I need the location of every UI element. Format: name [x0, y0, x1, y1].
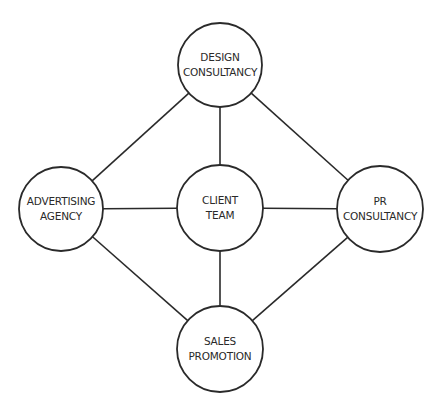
label-line: TEAM — [170, 208, 270, 223]
label-line: CONSULTANCY — [170, 65, 270, 80]
edge-advertising-sales — [93, 237, 188, 321]
label-line: CONSULTANCY — [330, 209, 430, 224]
edge-design-advertising — [92, 93, 189, 181]
node-label-pr: PR CONSULTANCY — [330, 194, 430, 224]
edge-design-pr — [251, 93, 348, 180]
label-line: DESIGN — [170, 50, 270, 65]
node-label-design: DESIGN CONSULTANCY — [170, 50, 270, 80]
node-label-advertising: ADVERTISING AGENCY — [11, 194, 111, 224]
label-line: AGENCY — [11, 209, 111, 224]
edge-pr-sales — [252, 237, 347, 320]
label-line: PR — [330, 194, 430, 209]
label-line: PROMOTION — [170, 349, 270, 364]
node-label-sales: SALES PROMOTION — [170, 334, 270, 364]
label-line: SALES — [170, 334, 270, 349]
diagram-canvas: DESIGN CONSULTANCY ADVERTISING AGENCY CL… — [0, 0, 443, 414]
node-label-client: CLIENT TEAM — [170, 193, 270, 223]
label-line: ADVERTISING — [11, 194, 111, 209]
label-line: CLIENT — [170, 193, 270, 208]
